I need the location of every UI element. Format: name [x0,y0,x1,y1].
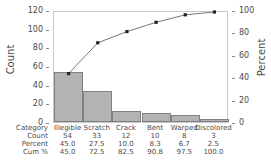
pareto-chart: Count Percent 020406080100120 0204060801… [0,0,271,163]
y2-tick-mark [232,56,235,57]
table-row-label: Cum % [0,148,48,156]
table-row: Cum %45.072.582.590.897.5100.0 [0,148,271,156]
cumulative-line-marker [213,10,216,13]
y-tick-label: 60 [33,63,43,71]
y2-tick-mark [232,101,235,102]
y2-tick-label: 80 [239,29,249,37]
y-tick-label: 20 [33,100,43,108]
cumulative-percent-line [54,12,229,124]
y2-tick-label: 100 [239,7,254,15]
cumulative-line-marker [154,21,157,24]
y2-tick-label: 40 [239,74,249,82]
y-tick-mark [46,48,49,49]
y-tick-label: 80 [33,44,43,52]
table-cell: 2.5 [193,140,234,148]
cumulative-line-marker [96,41,99,44]
cumulative-line-marker [67,72,70,75]
y-tick-label: 120 [28,7,43,15]
table-row-label: Category [0,124,48,132]
y2-tick-mark [232,33,235,34]
table-cell: Discolored [193,124,234,132]
cumulative-line-path [69,12,215,74]
cumulative-line-marker [184,13,187,16]
y-tick-mark [46,104,49,105]
y-tick-mark [46,11,49,12]
table-row: Count5433121083 [0,132,271,140]
y2-tick-label: 60 [239,52,249,60]
plot-area [53,11,228,123]
y-tick-label: 100 [28,26,43,34]
table-row: Percent45.027.510.08.36.72.5 [0,140,271,148]
y-tick-label: 40 [33,82,43,90]
y2-tick-mark [232,78,235,79]
y2-tick-mark [232,11,235,12]
cumulative-line-marker [125,30,128,33]
y-tick-mark [46,30,49,31]
table-cell: 100.0 [193,148,234,156]
table-row: CategoryIllegibleScratchCrackBentWarpedD… [0,124,271,132]
y-axis-title-count: Count [5,36,16,84]
table-cell: 3 [193,132,234,140]
data-table: CategoryIllegibleScratchCrackBentWarpedD… [0,124,271,156]
y2-tick-label: 20 [239,97,249,105]
y-tick-mark [46,67,49,68]
y-tick-mark [46,86,49,87]
table-row-label: Count [0,132,48,140]
table-row-label: Percent [0,140,48,148]
